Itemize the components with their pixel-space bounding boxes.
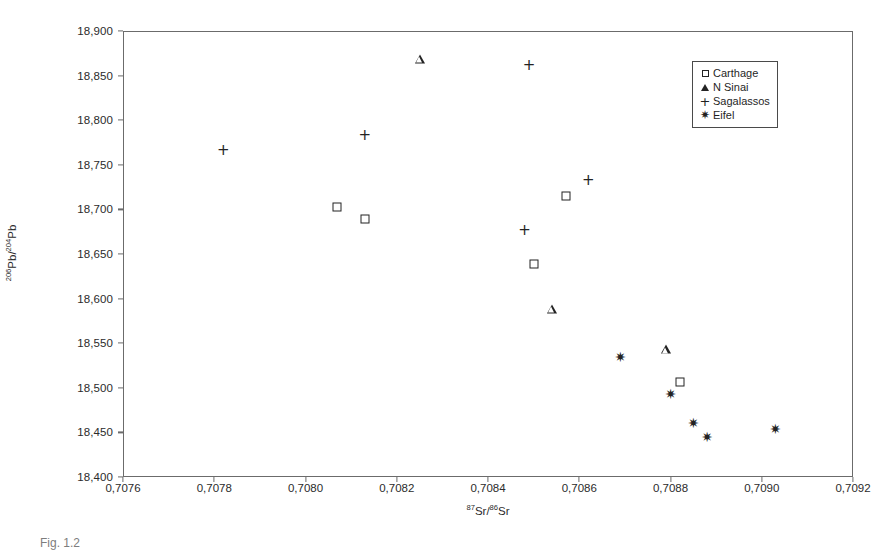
data-point-eifel: ✷ — [687, 416, 699, 430]
y-axis-tick-label: 18,450 — [55, 426, 113, 438]
y-axis-tick-label: 18,750 — [55, 159, 113, 171]
figure-container: 18,90018,85018,80018,75018,70018,65018,6… — [0, 0, 893, 552]
y-axis-tick-label: 18,550 — [55, 337, 113, 349]
legend-marker-plus-icon: + — [698, 95, 712, 108]
data-point-carthage — [333, 202, 342, 211]
x-axis-tick-label: 0,7092 — [835, 482, 870, 494]
x-axis-tick-label: 0,7086 — [562, 482, 597, 494]
y-axis-tick-mark — [118, 120, 123, 121]
y-axis-tick-label: 18,900 — [55, 25, 113, 37]
x-axis-tick-label: 0,7090 — [744, 482, 779, 494]
y-axis-tick-mark — [118, 387, 123, 388]
data-point-sagalassos: + — [518, 222, 531, 237]
y-axis-title-sup-204: 204 — [4, 239, 13, 252]
figure-caption: Fig. 1.2 — [40, 536, 80, 550]
y-axis-title-mid: Pb/ — [6, 251, 18, 268]
x-axis-title-tail: Sr — [498, 505, 510, 517]
y-axis-tick-mark — [118, 30, 123, 31]
legend-marker-square-icon — [698, 70, 712, 77]
legend-marker-asterisk-icon: ✷ — [698, 109, 712, 121]
x-axis-tick-label: 0,7080 — [288, 482, 323, 494]
y-axis-tick-mark — [118, 75, 123, 76]
x-axis-tick-mark — [487, 477, 488, 482]
legend-label: Sagalassos — [712, 95, 770, 107]
legend-item-n-sinai: N Sinai — [698, 80, 770, 94]
x-axis-tick-mark — [122, 477, 123, 482]
data-point-carthage — [360, 215, 369, 224]
legend-item-eifel: ✷Eifel — [698, 108, 770, 122]
data-point-eifel: ✷ — [770, 422, 782, 436]
asterisk-icon: ✷ — [700, 109, 710, 121]
x-axis-tick-label: 0,7082 — [379, 482, 414, 494]
data-point-eifel: ✷ — [614, 350, 626, 364]
y-axis-tick-mark — [118, 298, 123, 299]
x-axis-tick-mark — [579, 477, 580, 482]
data-point-carthage — [529, 259, 538, 268]
y-axis-tick-label: 18,800 — [55, 114, 113, 126]
data-point-n-sinai — [547, 305, 557, 314]
data-point-sagalassos: + — [582, 172, 595, 187]
data-point-eifel: ✷ — [665, 387, 677, 401]
triangle-icon — [701, 84, 709, 91]
y-axis-title: 206Pb/204Pb — [6, 225, 18, 282]
legend-label: N Sinai — [712, 81, 748, 93]
legend-label: Eifel — [712, 109, 734, 121]
legend-item-sagalassos: +Sagalassos — [698, 94, 770, 108]
x-axis-tick-mark — [305, 477, 306, 482]
y-axis-tick-mark — [118, 164, 123, 165]
plus-icon: + — [700, 95, 711, 108]
y-axis-tick-label: 18,600 — [55, 293, 113, 305]
x-axis-tick-label: 0,7076 — [105, 482, 140, 494]
x-axis-tick-label: 0,7084 — [470, 482, 505, 494]
y-axis-tick-label: 18,700 — [55, 203, 113, 215]
legend-label: Carthage — [712, 67, 758, 79]
x-axis-tick-mark — [670, 477, 671, 482]
data-point-sagalassos: + — [523, 57, 536, 72]
legend: CarthageN Sinai+Sagalassos✷Eifel — [692, 61, 778, 128]
y-axis-tick-mark — [118, 209, 123, 210]
x-axis-title-mid: Sr/ — [475, 505, 490, 517]
data-point-eifel: ✷ — [701, 430, 713, 444]
x-axis-tick-label: 0,7078 — [197, 482, 232, 494]
data-point-n-sinai — [661, 345, 671, 354]
y-axis-tick-label: 18,650 — [55, 248, 113, 260]
x-axis-tick-label: 0,7088 — [653, 482, 688, 494]
data-point-sagalassos: + — [217, 142, 230, 157]
y-axis-tick-label: 18,850 — [55, 70, 113, 82]
x-axis-title-sup-86: 86 — [490, 503, 498, 512]
y-axis-tick-mark — [118, 253, 123, 254]
legend-item-carthage: Carthage — [698, 66, 770, 80]
x-axis-tick-mark — [852, 477, 853, 482]
y-axis-tick-mark — [118, 343, 123, 344]
y-axis-tick-label: 18,400 — [55, 471, 113, 483]
y-axis-tick-mark — [118, 432, 123, 433]
legend-marker-triangle-icon — [698, 84, 712, 91]
x-axis-title: 87Sr/86Sr — [466, 505, 509, 517]
x-axis-tick-mark — [396, 477, 397, 482]
data-point-carthage — [561, 192, 570, 201]
x-axis-tick-mark — [214, 477, 215, 482]
data-point-n-sinai — [415, 54, 425, 63]
y-axis-tick-label: 18,500 — [55, 382, 113, 394]
data-point-sagalassos: + — [359, 128, 372, 143]
square-icon — [702, 70, 709, 77]
y-axis-title-tail: Pb — [6, 225, 18, 239]
x-axis-tick-mark — [761, 477, 762, 482]
y-axis-title-sup-206: 206 — [4, 269, 13, 282]
